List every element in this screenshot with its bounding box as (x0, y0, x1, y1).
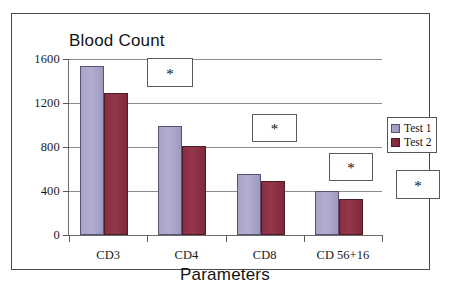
legend-item: Test 2 (391, 135, 432, 149)
bar-cd8-test-1 (237, 174, 261, 235)
plot-area: 040080012001600CD3CD4CD8CD 56+16 (68, 59, 382, 235)
asterisk-glyph: * (414, 179, 422, 194)
legend-label-test-2: Test 2 (404, 136, 432, 148)
bar-cd-56-16-test-1 (315, 191, 339, 235)
significance-marker-cd3: * (147, 58, 193, 87)
y-tick-label: 0 (54, 228, 60, 243)
y-tick-mark (63, 59, 69, 60)
x-tick-mark (382, 235, 383, 242)
asterisk-glyph: * (166, 67, 174, 82)
legend-swatch-test-2 (391, 138, 400, 147)
legend-label-test-1: Test 1 (404, 122, 432, 134)
x-category-label-cd3: CD3 (96, 248, 120, 263)
chart-legend: Test 1 Test 2 (387, 117, 437, 153)
asterisk-glyph: * (347, 161, 355, 176)
x-category-label-cd4: CD4 (175, 248, 199, 263)
x-tick-mark (147, 235, 148, 242)
y-tick-mark (63, 103, 69, 104)
y-tick-mark (63, 147, 69, 148)
legend-swatch-test-1 (391, 124, 400, 133)
bar-cd3-test-2 (104, 93, 128, 235)
significance-marker-cd56-16: * (396, 170, 440, 199)
x-category-label-cd8: CD8 (253, 248, 277, 263)
x-tick-mark (226, 235, 227, 242)
y-tick-label: 800 (41, 140, 60, 155)
gridline (69, 59, 382, 60)
bar-cd4-test-2 (182, 146, 206, 235)
x-tick-mark (69, 235, 70, 242)
significance-marker-cd8: * (329, 153, 373, 181)
x-tick-mark (304, 235, 305, 242)
figure-frame: Blood Count 040080012001600CD3CD4CD8CD 5… (11, 13, 430, 270)
y-tick-label: 1600 (34, 52, 60, 67)
asterisk-glyph: * (271, 122, 279, 137)
x-axis-title: Parameters (68, 265, 382, 285)
y-tick-label: 1200 (34, 96, 60, 111)
bar-cd3-test-1 (80, 66, 104, 235)
x-category-label-cd-56-16: CD 56+16 (317, 248, 370, 263)
chart-title: Blood Count (69, 31, 165, 51)
bar-cd4-test-1 (158, 126, 182, 235)
bar-cd-56-16-test-2 (339, 199, 363, 235)
significance-marker-cd4: * (252, 114, 297, 142)
y-tick-mark (63, 191, 69, 192)
bar-cd8-test-2 (261, 181, 285, 235)
legend-item: Test 1 (391, 121, 432, 135)
y-tick-label: 400 (41, 184, 60, 199)
